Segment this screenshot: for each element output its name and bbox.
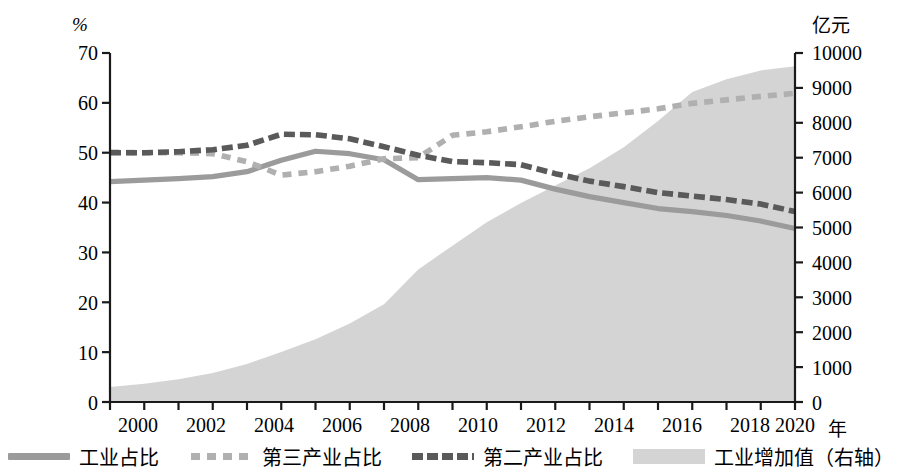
series-area-工业增加值（右轴） (110, 66, 795, 402)
x-tick-2002: 2002 (178, 414, 234, 437)
right-tick-3000: 3000 (812, 287, 852, 310)
legend-label-industrial-value-added: 工业增加值（右轴） (714, 442, 894, 470)
right-tick-6000: 6000 (812, 182, 852, 205)
chart-legend: 工业占比 第三产业占比 第二产业占比 工业增加值（右轴） (0, 443, 904, 470)
legend-item-secondary-share[interactable]: 第二产业占比 (412, 442, 603, 470)
left-tick-0: 0 (52, 392, 98, 415)
right-axis-unit: 亿元 (812, 10, 850, 37)
right-tick-9000: 9000 (812, 77, 852, 100)
left-tick-50: 50 (52, 142, 98, 165)
x-tick-2006: 2006 (314, 414, 370, 437)
right-tick-8000: 8000 (812, 112, 852, 135)
right-tick-10000: 10000 (812, 42, 862, 65)
left-tick-30: 30 (52, 242, 98, 265)
x-tick-2004: 2004 (246, 414, 302, 437)
series-layer (110, 66, 795, 402)
area-swatch-icon (633, 449, 705, 464)
x-tick-2012: 2012 (518, 414, 574, 437)
x-tick-2020: 2020 (767, 414, 823, 437)
right-tick-0: 0 (812, 392, 822, 415)
left-tick-60: 60 (52, 92, 98, 115)
x-axis-unit: 年 (828, 414, 847, 441)
left-axis-unit: % (72, 14, 88, 36)
right-tick-7000: 7000 (812, 147, 852, 170)
right-tick-2000: 2000 (812, 322, 852, 345)
dashed-line-light-swatch-icon (191, 453, 253, 460)
left-tick-10: 10 (52, 342, 98, 365)
legend-label-secondary-share: 第二产业占比 (483, 442, 603, 470)
chart-container: % 亿元 70 60 50 40 30 20 10 0 10000 9000 8… (0, 0, 904, 470)
left-tick-70: 70 (52, 42, 98, 65)
x-tick-2000: 2000 (110, 414, 166, 437)
x-tick-2016: 2016 (654, 414, 710, 437)
legend-item-industry-share[interactable]: 工业占比 (8, 442, 159, 470)
x-tick-2014: 2014 (586, 414, 642, 437)
right-tick-5000: 5000 (812, 217, 852, 240)
legend-label-tertiary-share: 第三产业占比 (262, 442, 382, 470)
left-tick-40: 40 (52, 192, 98, 215)
left-tick-20: 20 (52, 292, 98, 315)
x-tick-2010: 2010 (450, 414, 506, 437)
plot-area (0, 0, 904, 470)
x-tick-2008: 2008 (382, 414, 438, 437)
right-tick-4000: 4000 (812, 252, 852, 275)
legend-label-industry-share: 工业占比 (79, 442, 159, 470)
legend-item-industrial-value-added[interactable]: 工业增加值（右轴） (633, 442, 894, 470)
dashed-line-dark-swatch-icon (412, 453, 474, 460)
right-tick-1000: 1000 (812, 357, 852, 380)
solid-line-swatch-icon (8, 453, 70, 460)
legend-item-tertiary-share[interactable]: 第三产业占比 (191, 442, 382, 470)
